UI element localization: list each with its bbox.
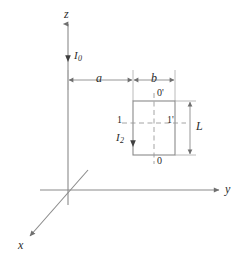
figure-canvas: z y x I0 I2 a b L 0' 0 1 1' (0, 0, 239, 262)
loop-node-top-label: 0' (157, 88, 164, 98)
current-i2-subscript: 2 (120, 136, 124, 145)
current-i0-arrow (65, 55, 71, 62)
current-i0-subscript: 0 (78, 54, 82, 63)
dimension-line-L (175, 101, 196, 155)
axis-x-label: x (18, 239, 23, 251)
current-i0-label: I0 (74, 50, 82, 63)
loop-node-right-label: 1' (167, 115, 174, 125)
current-i2-arrow (130, 140, 136, 147)
loop-node-left-label: 1 (117, 115, 122, 125)
dimension-b-label: b (151, 72, 157, 84)
dimension-L-label: L (196, 120, 203, 132)
current-i2-label: I2 (116, 132, 124, 145)
axis-x (30, 170, 88, 236)
axis-y-label: y (225, 183, 230, 195)
loop-node-bottom-label: 0 (157, 156, 162, 166)
dimension-a-label: a (96, 72, 102, 84)
axis-z-label: z (64, 8, 69, 20)
loop-center-lines (122, 93, 186, 164)
